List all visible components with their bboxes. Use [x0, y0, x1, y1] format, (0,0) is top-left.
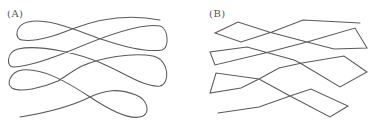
figure-canvas — [0, 0, 374, 129]
polyline-serpentine-path — [210, 20, 367, 117]
smooth-serpentine-curve — [8, 17, 167, 117]
